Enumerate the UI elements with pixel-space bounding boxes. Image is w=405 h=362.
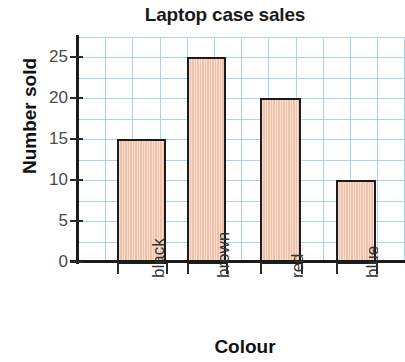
y-axis-tick <box>70 220 83 222</box>
gridline-vertical <box>323 37 324 262</box>
gridline-vertical <box>105 37 106 262</box>
x-axis-tick <box>260 262 262 274</box>
y-axis-tick <box>70 261 83 263</box>
x-axis-title: Colour <box>150 336 340 358</box>
bar-chart: Laptop case sales 0510152025 blackbrownr… <box>0 0 405 362</box>
y-axis-tick <box>70 97 83 99</box>
y-axis-tick-label: 5 <box>28 212 68 229</box>
x-axis-label-red: red <box>288 188 308 278</box>
x-axis-tick <box>117 262 119 274</box>
y-axis-tick <box>70 56 83 58</box>
x-axis-tick <box>336 262 338 274</box>
x-axis-label-blue: blue <box>363 188 383 278</box>
x-axis-line <box>70 260 405 263</box>
x-axis-label-black: black <box>149 188 169 278</box>
chart-title: Laptop case sales <box>60 4 390 26</box>
y-axis-tick-label: 0 <box>28 253 68 270</box>
x-axis-tick <box>187 262 189 274</box>
gridline-vertical <box>241 37 242 262</box>
y-axis-title: Number sold <box>19 36 41 196</box>
y-axis-tick <box>70 138 83 140</box>
plot-area <box>78 37 405 262</box>
y-axis-tick <box>70 179 83 181</box>
y-axis-line <box>76 35 79 264</box>
x-axis-label-brown: brown <box>214 188 234 278</box>
